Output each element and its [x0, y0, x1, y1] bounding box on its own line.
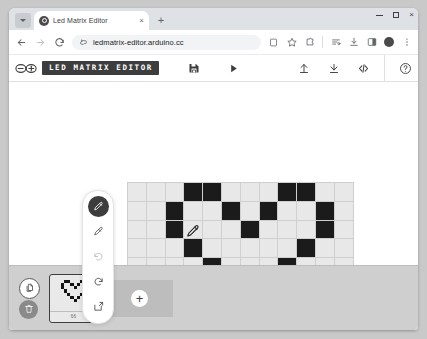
screen: Led Matrix Editor × + × ledma	[0, 0, 427, 339]
upload-icon[interactable]	[297, 62, 310, 75]
led-cell[interactable]	[166, 202, 184, 220]
clear-tool[interactable]	[88, 296, 109, 317]
led-cell[interactable]	[203, 221, 221, 239]
led-cell[interactable]	[335, 202, 353, 220]
browser-tab[interactable]: Led Matrix Editor ×	[34, 11, 149, 30]
pencil-tool[interactable]	[88, 196, 109, 217]
undo-tool[interactable]	[88, 246, 109, 267]
led-cell[interactable]	[278, 239, 296, 257]
frame-controls	[19, 278, 40, 319]
led-cell[interactable]	[260, 202, 278, 220]
led-cell[interactable]	[222, 221, 240, 239]
led-cell[interactable]	[241, 239, 259, 257]
led-cell[interactable]	[166, 221, 184, 239]
browser-action-icons	[268, 36, 412, 48]
app-header: LED MATRIX EDITOR	[9, 55, 418, 82]
led-cell[interactable]	[335, 183, 353, 201]
arduino-infinity-logo	[15, 63, 37, 74]
extensions-puzzle-icon[interactable]	[304, 37, 315, 48]
led-cell[interactable]	[316, 202, 334, 220]
browser-window: Led Matrix Editor × + × ledma	[9, 8, 418, 330]
led-cell[interactable]	[316, 239, 334, 257]
led-cell[interactable]	[128, 202, 146, 220]
led-cell[interactable]	[128, 221, 146, 239]
led-cell[interactable]	[335, 221, 353, 239]
downloads-icon[interactable]	[348, 37, 359, 48]
led-cell[interactable]	[316, 183, 334, 201]
help-icon[interactable]	[399, 62, 412, 75]
profile-avatar[interactable]	[384, 37, 394, 47]
close-icon[interactable]: ×	[139, 17, 144, 25]
led-cell[interactable]	[278, 183, 296, 201]
add-frame-slot[interactable]: +	[106, 280, 173, 317]
led-matrix-editor-app: LED MATRIX EDITOR	[9, 55, 418, 330]
download-icon[interactable]	[327, 62, 340, 75]
led-cell[interactable]	[128, 183, 146, 201]
toolbar-divider	[322, 36, 323, 48]
redo-tool[interactable]	[88, 271, 109, 292]
led-cell[interactable]	[278, 202, 296, 220]
close-window-icon[interactable]: ×	[409, 11, 414, 19]
led-cell[interactable]	[222, 183, 240, 201]
led-cell[interactable]	[297, 221, 315, 239]
led-cell[interactable]	[128, 239, 146, 257]
play-icon[interactable]	[227, 62, 240, 75]
led-cell[interactable]	[184, 202, 202, 220]
save-page-icon[interactable]	[268, 37, 279, 48]
minimize-icon[interactable]	[376, 15, 383, 16]
help-divider	[384, 55, 412, 81]
led-cell[interactable]	[147, 202, 165, 220]
duplicate-frame-button[interactable]	[19, 278, 40, 299]
led-cell[interactable]	[222, 202, 240, 220]
site-info-icon[interactable]	[79, 38, 88, 47]
led-cell[interactable]	[166, 239, 184, 257]
led-cell[interactable]	[184, 183, 202, 201]
led-cell[interactable]	[203, 183, 221, 201]
reload-icon[interactable]	[53, 36, 65, 48]
led-cell[interactable]	[147, 239, 165, 257]
bookmark-star-icon[interactable]	[286, 37, 297, 48]
led-cell[interactable]	[166, 183, 184, 201]
eraser-tool[interactable]	[88, 221, 109, 242]
led-cell[interactable]	[184, 239, 202, 257]
code-icon[interactable]	[357, 62, 370, 75]
forward-arrow-icon[interactable]	[34, 36, 46, 48]
led-cell[interactable]	[203, 239, 221, 257]
new-tab-button[interactable]: +	[153, 12, 169, 28]
led-cell[interactable]	[335, 239, 353, 257]
address-bar[interactable]: ledmatrix-editor.arduino.cc	[72, 35, 261, 50]
editor-canvas-area	[9, 82, 418, 265]
led-cell[interactable]	[184, 221, 202, 239]
tab-groups-icon[interactable]	[330, 37, 341, 48]
led-cell[interactable]	[278, 221, 296, 239]
led-cell[interactable]	[241, 183, 259, 201]
arduino-favicon	[39, 16, 49, 26]
led-cell[interactable]	[241, 221, 259, 239]
tab-title: Led Matrix Editor	[53, 17, 135, 24]
led-cell[interactable]	[297, 183, 315, 201]
window-controls: ×	[376, 11, 414, 19]
led-cell[interactable]	[147, 221, 165, 239]
back-arrow-icon[interactable]	[15, 36, 27, 48]
save-project-icon[interactable]	[188, 62, 201, 75]
led-cell[interactable]	[260, 239, 278, 257]
add-frame-button[interactable]: +	[131, 290, 148, 307]
led-cell[interactable]	[297, 239, 315, 257]
header-right-actions	[297, 55, 412, 81]
led-cell[interactable]	[203, 202, 221, 220]
led-cell[interactable]	[297, 202, 315, 220]
led-cell[interactable]	[260, 183, 278, 201]
delete-frame-button[interactable]	[19, 300, 38, 319]
tool-palette	[82, 190, 114, 324]
side-panel-icon[interactable]	[366, 37, 377, 48]
maximize-icon[interactable]	[393, 12, 399, 18]
browser-toolbar: ledmatrix-editor.arduino.cc	[9, 30, 418, 55]
tab-search-button[interactable]	[15, 13, 31, 28]
led-cell[interactable]	[241, 202, 259, 220]
led-cell[interactable]	[316, 221, 334, 239]
led-cell[interactable]	[260, 221, 278, 239]
chrome-menu-icon[interactable]	[401, 37, 412, 48]
led-cell[interactable]	[147, 183, 165, 201]
led-cell[interactable]	[222, 239, 240, 257]
chevron-down-icon	[20, 19, 26, 22]
